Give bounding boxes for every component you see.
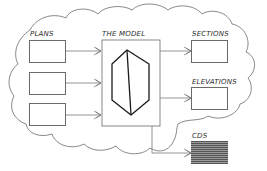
elevations-box <box>191 87 228 110</box>
cds-hatched-box <box>191 141 228 164</box>
cds-label: CDS <box>192 132 207 140</box>
plans-label: PLANS <box>30 30 54 38</box>
sections-box <box>191 40 228 63</box>
sections-label: SECTIONS <box>192 30 229 38</box>
plans-box-2 <box>29 72 66 95</box>
model-label: THE MODEL <box>102 30 145 38</box>
edge-plans-to-model <box>66 47 101 119</box>
plans-box-1 <box>29 40 66 63</box>
elevations-label: ELEVATIONS <box>192 78 237 86</box>
plans-box-3 <box>29 103 66 126</box>
